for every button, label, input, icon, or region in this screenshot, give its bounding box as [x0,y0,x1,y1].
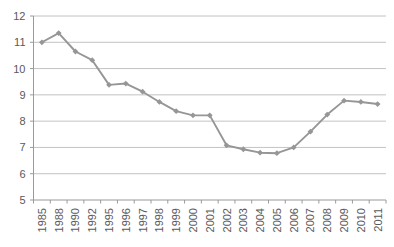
x-axis-tick-label: 2004 [254,208,266,232]
y-axis-tick-label: 7 [19,141,25,153]
x-axis-tick-label: 1999 [170,208,182,232]
x-axis-tick-label: 1998 [153,208,165,232]
x-axis-tick-label: 1988 [53,208,65,232]
y-axis-tick-label: 8 [19,115,25,127]
y-axis-tick-label: 5 [19,194,25,206]
line-chart: 12111098765 1985198819901992199519961997… [0,0,394,247]
x-axis-tick-label: 2005 [271,208,283,232]
data-point-marker [375,101,381,107]
y-axis-tick-label: 10 [13,63,25,75]
x-axis-tick-label: 1995 [103,208,115,232]
y-axis-tick-label: 11 [14,36,25,48]
x-axis-tick-label: 2009 [338,208,350,232]
data-point-marker [257,150,263,156]
x-axis-tick-label: 2010 [355,208,367,232]
gridlines [34,16,387,174]
y-axis-tick-label: 12 [13,10,25,22]
data-point-marker [358,99,364,105]
x-axis-tick-marks [34,200,387,204]
data-point-marker [274,150,280,156]
data-point-marker [190,112,196,118]
y-axis-tick-label: 9 [19,89,25,101]
y-axis-tick-labels: 12111098765 [13,10,25,206]
chart-canvas: 12111098765 1985198819901992199519961997… [0,0,394,247]
x-axis-tick-label: 1997 [137,208,149,232]
series-markers [39,30,381,156]
x-axis-tick-label: 2006 [288,208,300,232]
x-axis-tick-label: 2007 [304,208,316,232]
x-axis-tick-labels: 1985198819901992199519961997199819992000… [36,208,384,232]
x-axis-tick-label: 1996 [120,208,132,232]
y-axis-tick-marks [30,16,34,200]
x-axis-tick-label: 1992 [86,208,98,232]
x-axis-tick-label: 2011 [372,208,384,232]
series-line-path [42,33,378,153]
x-axis-tick-label: 1985 [36,208,48,232]
x-axis-tick-label: 2002 [221,208,233,232]
x-axis-tick-label: 2000 [187,208,199,232]
x-axis-tick-label: 2001 [204,208,216,232]
x-axis-tick-label: 2003 [237,208,249,232]
y-axis-tick-label: 6 [19,168,25,180]
x-axis-tick-label: 2008 [321,208,333,232]
x-axis-tick-label: 1990 [69,208,81,232]
